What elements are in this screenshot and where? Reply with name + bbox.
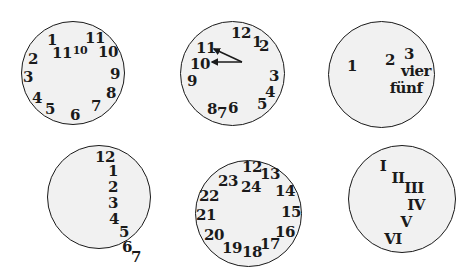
hour-hand — [214, 49, 242, 62]
clock-hands-layer — [0, 0, 474, 275]
